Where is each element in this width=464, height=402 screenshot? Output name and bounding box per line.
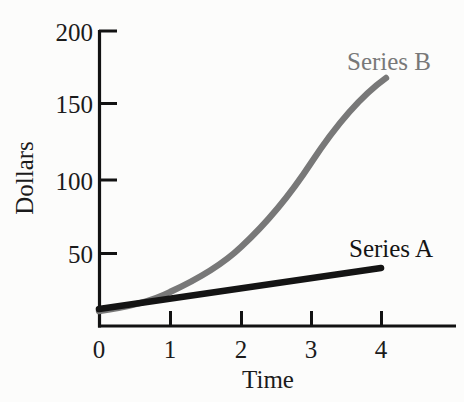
line-chart: 200 150 100 50 0 1 2 3 4 Dollars Time Se… (0, 0, 464, 402)
x-tick-label-0: 0 (93, 336, 106, 363)
series-a-label: Series A (349, 235, 433, 262)
chart-container: 200 150 100 50 0 1 2 3 4 Dollars Time Se… (0, 0, 464, 402)
x-tick-label-2: 2 (235, 336, 248, 363)
y-tick-label-100: 100 (56, 168, 94, 195)
x-axis-title: Time (242, 366, 294, 393)
y-tick-label-150: 150 (56, 91, 94, 118)
y-axis-title: Dollars (11, 141, 38, 215)
y-tick-label-50: 50 (68, 241, 93, 268)
x-tick-label-1: 1 (164, 336, 177, 363)
x-tick-label-4: 4 (375, 336, 388, 363)
series-b-label: Series B (347, 48, 431, 75)
x-tick-label-3: 3 (305, 336, 318, 363)
y-tick-label-200: 200 (56, 19, 94, 46)
